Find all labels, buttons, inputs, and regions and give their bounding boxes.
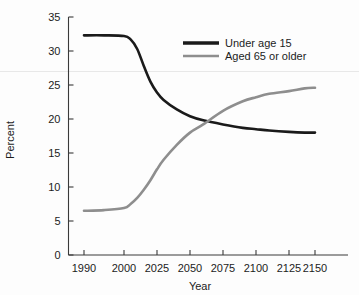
x-tick-label: 2150 bbox=[303, 262, 327, 274]
legend-label: Under age 15 bbox=[225, 37, 292, 49]
y-tick-label: 30 bbox=[48, 45, 60, 57]
x-tick-label: 2000 bbox=[112, 262, 136, 274]
y-tick-label: 35 bbox=[48, 11, 60, 23]
y-tick-label: 20 bbox=[48, 113, 60, 125]
x-tick-label: 2025 bbox=[145, 262, 169, 274]
y-axis-title: Percent bbox=[4, 121, 16, 159]
y-tick-label: 25 bbox=[48, 79, 60, 91]
chart-container: 05101520253035 1990200020252050207521002… bbox=[0, 0, 359, 295]
line-chart: 05101520253035 1990200020252050207521002… bbox=[0, 0, 359, 295]
y-tick-label: 15 bbox=[48, 147, 60, 159]
x-tick-label: 2050 bbox=[178, 262, 202, 274]
legend-label: Aged 65 or older bbox=[225, 50, 307, 62]
y-tick-label: 10 bbox=[48, 181, 60, 193]
y-tick-label: 0 bbox=[54, 249, 60, 261]
x-tick-label: 1990 bbox=[72, 262, 96, 274]
x-axis-title: Year bbox=[189, 280, 212, 292]
x-tick-label: 2100 bbox=[244, 262, 268, 274]
x-tick-label: 2125 bbox=[277, 262, 301, 274]
x-tick-label: 2075 bbox=[211, 262, 235, 274]
y-tick-label: 5 bbox=[54, 215, 60, 227]
